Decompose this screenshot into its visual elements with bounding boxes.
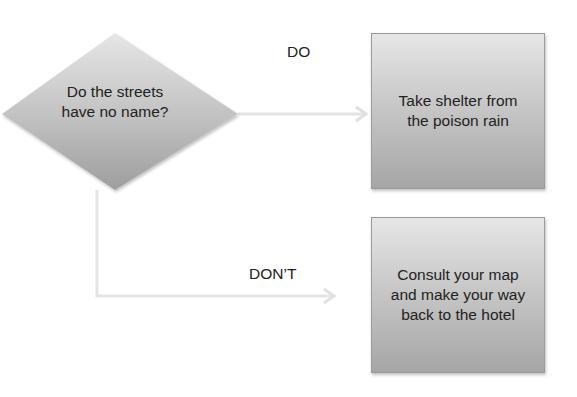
edge-label-do: DO bbox=[287, 43, 310, 61]
outcome-text-dont: Consult your map and make your way back … bbox=[391, 265, 525, 325]
outcome-box-do: Take shelter from the poison rain bbox=[371, 33, 545, 189]
connector-dont bbox=[97, 190, 334, 303]
edge-label-dont: DON’T bbox=[249, 265, 296, 283]
decision-text-line-1: Do the streets bbox=[30, 82, 200, 102]
outcome-box-dont: Consult your map and make your way back … bbox=[371, 217, 545, 373]
decision-text-line-2: have no name? bbox=[30, 102, 200, 122]
connector-do bbox=[238, 107, 366, 121]
decision-text: Do the streets have no name? bbox=[30, 82, 200, 122]
outcome-text-do: Take shelter from the poison rain bbox=[399, 91, 518, 131]
